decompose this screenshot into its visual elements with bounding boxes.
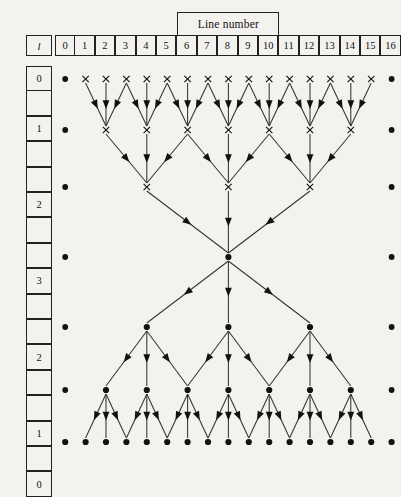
broadcast-edge-8-to-4 [147, 261, 229, 323]
node-l0-row6-col3 [123, 439, 129, 445]
node-l0-row6-col16 [389, 439, 395, 445]
node-l0-row0-col11 [286, 76, 292, 82]
edge-arrowhead [225, 288, 232, 297]
node-l0-row6-col11 [287, 439, 293, 445]
line-number-caption-box: Line number [177, 12, 279, 35]
reduce-edge-5-to-4 [147, 83, 167, 126]
line-number-label: 13 [324, 40, 335, 51]
node-l0-row0-col6 [184, 76, 190, 82]
broadcast-edge-12-to-11 [290, 394, 310, 438]
level-header-label: l [37, 40, 40, 52]
edge-arrowhead [325, 353, 336, 364]
node-l0-row6-col2 [103, 439, 109, 445]
edge-arrowhead [336, 411, 346, 422]
node-l0-row0-col14 [348, 76, 354, 82]
line-number-label: 2 [102, 40, 107, 51]
endpoint-node-row3-col0 [62, 254, 68, 260]
node-l1-row5-col6 [185, 387, 191, 393]
line-number-cell-15: 15 [360, 35, 380, 56]
edge-arrowhead [243, 153, 254, 164]
reduce-edge-7-to-6 [188, 83, 208, 126]
edge-arrowhead [143, 412, 150, 421]
level-box-label: 2 [36, 352, 41, 363]
level-box-empty-15 [26, 446, 52, 471]
broadcast-edge-8-to-10 [228, 331, 269, 386]
edge-arrowhead [91, 99, 101, 110]
level-box-2-5: 2 [26, 192, 52, 217]
node-l1-row5-col10 [266, 387, 272, 393]
edge-arrowhead [203, 353, 214, 364]
line-number-label: 14 [345, 40, 356, 51]
node-l0-row6-col1 [83, 439, 89, 445]
endpoint-node-row1-col16 [389, 127, 395, 133]
node-l0-row6-col4 [144, 439, 150, 445]
edge-arrowhead [91, 411, 101, 422]
endpoint-node-row0-col0 [62, 76, 68, 82]
node-l0-row6-col8 [225, 439, 231, 445]
edge-arrowhead [225, 218, 232, 227]
line-number-cell-7: 7 [197, 35, 217, 56]
broadcast-edge-4-to-5 [147, 394, 167, 438]
level-box-0-0: 0 [26, 66, 52, 91]
edge-arrowhead [266, 412, 273, 421]
node-l0-row6-col14 [348, 439, 354, 445]
level-box-0-16: 0 [26, 471, 52, 496]
node-l1-row5-col2 [103, 387, 109, 393]
node-l0-row6-col6 [185, 439, 191, 445]
endpoint-node-row5-col16 [389, 387, 395, 393]
edge-arrowhead [284, 353, 295, 364]
node-l1-row1-col10 [266, 127, 272, 133]
broadcast-edge-4-to-2 [106, 331, 147, 386]
broadcast-edge-14-to-13 [330, 394, 350, 438]
endpoint-node-row2-col16 [389, 184, 395, 190]
broadcast-edge-2-to-1 [86, 394, 106, 438]
edge-arrowhead [347, 100, 354, 109]
broadcast-edge-8-to-9 [228, 394, 248, 438]
broadcast-edge-12-to-10 [269, 331, 310, 386]
level-box-1-2: 1 [26, 116, 52, 141]
node-l0-row6-col15 [368, 439, 374, 445]
edge-arrowhead [182, 287, 193, 298]
reduce-edge-11-to-12 [290, 83, 310, 126]
level-box-label: 1 [36, 123, 41, 134]
broadcast-edge-10-to-9 [249, 394, 269, 438]
broadcast-edge-6-to-7 [188, 394, 208, 438]
edge-arrowhead [264, 287, 275, 298]
edge-arrowhead [121, 353, 132, 364]
line-number-label: 11 [284, 40, 294, 51]
edge-arrowhead [203, 153, 214, 164]
edge-arrowhead [254, 99, 264, 110]
reduce-edge-13-to-12 [310, 83, 330, 126]
line-number-cell-0: 0 [55, 35, 75, 56]
node-l0-row6-col10 [266, 439, 272, 445]
broadcast-edge-8-to-6 [188, 331, 229, 386]
edge-arrowhead [143, 100, 150, 109]
broadcast-edge-14-to-15 [351, 394, 371, 438]
reduce-edge-11-to-10 [269, 83, 289, 126]
line-number-cell-12: 12 [299, 35, 319, 56]
level-box-empty-6 [26, 217, 52, 242]
reduce-edge-6-to-4 [147, 134, 188, 183]
level-box-empty-1 [26, 90, 52, 115]
edge-arrowhead [152, 411, 162, 422]
node-l0-row0-col8 [225, 76, 231, 82]
edge-arrowhead [295, 99, 305, 110]
line-number-label: 15 [365, 40, 376, 51]
line-number-cell-5: 5 [156, 35, 176, 56]
node-l0-row0-col3 [123, 76, 129, 82]
line-number-label: 7 [204, 40, 209, 51]
node-l1-row5-col14 [348, 387, 354, 393]
node-l2-row4-col8 [225, 324, 231, 330]
edge-arrowhead [225, 412, 232, 421]
edge-arrowhead [143, 154, 150, 163]
node-l2-row4-col4 [144, 324, 150, 330]
edge-arrowhead [225, 354, 232, 363]
line-number-cell-3: 3 [115, 35, 135, 56]
level-box-empty-3 [26, 141, 52, 166]
edge-arrowhead [295, 411, 305, 422]
endpoint-node-row0-col16 [389, 76, 395, 82]
level-box-empty-4 [26, 167, 52, 192]
edge-arrowhead [244, 353, 255, 364]
level-box-label: 2 [36, 199, 41, 210]
node-l1-row5-col12 [307, 387, 313, 393]
